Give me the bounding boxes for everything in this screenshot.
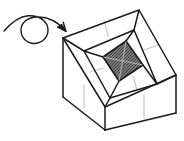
- box-diagram: [0, 0, 184, 141]
- figure-canvas: [0, 0, 184, 141]
